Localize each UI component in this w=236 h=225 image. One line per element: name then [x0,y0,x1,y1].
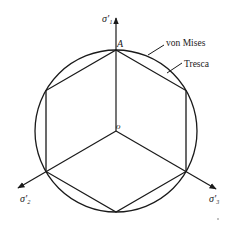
point-a-label: A [116,38,124,49]
tresca-label: Tresca [184,59,210,69]
stray-dot [217,218,218,219]
origin-label: o [116,121,121,131]
von-mises-label: von Mises [166,38,206,48]
tresca-leader [167,63,182,73]
von-mises-leader [148,45,164,55]
yield-surface-diagram: σ'₁ A o von Mises Tresca σ'₂ σ'₃ [0,0,236,225]
axis-sigma2 [18,131,116,188]
axis-sigma3 [116,131,216,189]
axis-sigma1-label: σ'₁ [102,13,113,24]
axis-sigma3-label: σ'₃ [209,193,220,204]
axis-sigma2-label: σ'₂ [20,193,31,204]
